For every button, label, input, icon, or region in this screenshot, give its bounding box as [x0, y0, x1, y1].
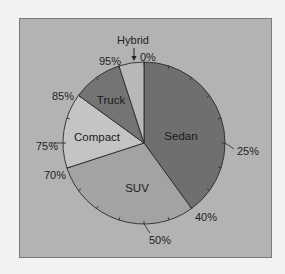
slice-label-sedan: Sedan [164, 130, 197, 142]
slice-label-suv: SUV [125, 182, 149, 194]
perimeter-label-95: 95% [99, 55, 121, 67]
hybrid-arrow-icon [132, 48, 137, 61]
perimeter-label-50: 50% [149, 234, 171, 246]
perimeter-label-75: 75% [36, 140, 58, 152]
perimeter-label-70: 70% [44, 169, 66, 181]
pie-chart: Sedan SUV Compact Truck Hybrid 0% 25% 40… [0, 0, 285, 274]
perimeter-label-25: 25% [237, 145, 259, 157]
leader-line [225, 143, 234, 149]
perimeter-label-85: 85% [52, 90, 74, 102]
perimeter-label-40: 40% [195, 211, 217, 223]
slice-label-truck: Truck [97, 94, 126, 106]
pie-slices [63, 62, 225, 224]
leader-line [144, 224, 150, 233]
slice-label-compact: Compact [74, 131, 121, 143]
annotation-hybrid: Hybrid [117, 34, 149, 46]
perimeter-label-0: 0% [140, 51, 156, 63]
